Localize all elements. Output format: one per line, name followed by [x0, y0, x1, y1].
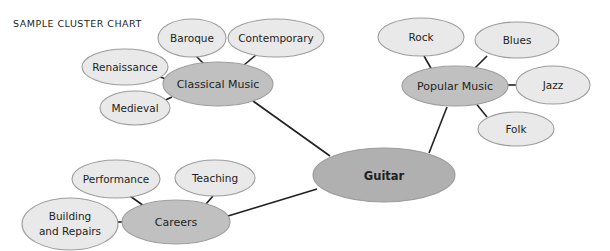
node-label-renaissance: Renaissance: [92, 61, 158, 73]
node-label-careers: Careers: [155, 216, 198, 229]
node-label-baroque: Baroque: [170, 32, 214, 44]
node-label-jazz: Jazz: [542, 79, 564, 91]
node-label-guitar: Guitar: [364, 169, 405, 183]
edge-careers-to-teaching: [206, 196, 213, 204]
cluster-diagram: RenaissanceBaroqueContemporaryMedievalRo…: [0, 0, 610, 251]
node-label-contemporary: Contemporary: [238, 32, 314, 44]
node-label-blues: Blues: [503, 34, 532, 46]
node-jazz[interactable]: Jazz: [516, 66, 590, 104]
cluster-chart-canvas: SAMPLE CLUSTER CHART RenaissanceBaroqueC…: [0, 0, 610, 251]
node-folk[interactable]: Folk: [478, 112, 554, 146]
node-label-building-and-repairs-line2: and Repairs: [39, 225, 101, 237]
node-rock[interactable]: Rock: [378, 18, 464, 56]
node-blues[interactable]: Blues: [475, 22, 559, 58]
edge-guitar-to-popular-music: [429, 107, 447, 153]
node-label-rock: Rock: [408, 31, 434, 43]
node-contemporary[interactable]: Contemporary: [228, 19, 324, 57]
node-label-building-and-repairs-line1: Building: [49, 210, 92, 222]
node-group: RenaissanceBaroqueContemporaryMedievalRo…: [22, 18, 590, 250]
node-renaissance[interactable]: Renaissance: [82, 49, 168, 85]
edge-guitar-to-classical-music: [253, 101, 330, 156]
node-guitar[interactable]: Guitar: [313, 148, 455, 202]
node-label-performance: Performance: [83, 173, 150, 185]
node-classical-music[interactable]: Classical Music: [163, 62, 273, 106]
node-building-and-repairs[interactable]: Buildingand Repairs: [22, 198, 118, 250]
node-label-folk: Folk: [505, 123, 527, 135]
node-careers[interactable]: Careers: [122, 200, 230, 244]
node-shape-building-and-repairs: [22, 198, 118, 250]
node-baroque[interactable]: Baroque: [158, 19, 226, 57]
edge-classical-music-to-contemporary: [244, 55, 256, 65]
node-label-medieval: Medieval: [111, 102, 158, 114]
node-label-popular-music: Popular Music: [417, 80, 493, 93]
node-label-classical-music: Classical Music: [177, 78, 260, 91]
node-teaching[interactable]: Teaching: [175, 160, 255, 196]
edge-guitar-to-careers: [228, 189, 317, 216]
node-medieval[interactable]: Medieval: [100, 91, 170, 125]
node-popular-music[interactable]: Popular Music: [402, 66, 508, 106]
node-label-teaching: Teaching: [191, 172, 238, 184]
node-performance[interactable]: Performance: [72, 160, 160, 198]
